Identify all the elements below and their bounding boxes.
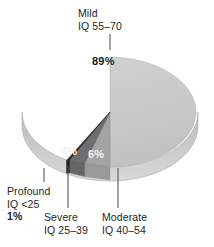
- slice-label-mild-name: Mild: [78, 7, 122, 20]
- slice-label-severe-iq: IQ 25–39: [44, 224, 88, 237]
- slice-label-moderate-name: Moderate: [102, 211, 147, 224]
- slice-percent-mild: 89%: [92, 55, 115, 67]
- slice-label-moderate-iq: IQ 40–54: [102, 224, 147, 237]
- slice-label-profound-name: Profound: [7, 185, 50, 198]
- slice-label-profound-iq: IQ <25: [7, 198, 50, 211]
- slice-label-severe: Severe IQ 25–39: [44, 211, 88, 236]
- slice-label-mild-iq: IQ 55–70: [78, 20, 122, 33]
- slice-label-moderate: Moderate IQ 40–54: [102, 211, 147, 236]
- slice-percent-moderate: 6%: [88, 148, 104, 160]
- slice-label-mild: Mild IQ 55–70: [78, 7, 122, 32]
- slice-label-severe-name: Severe: [44, 211, 88, 224]
- pie-chart-figure: Mild IQ 55–70 Profound IQ <25 1% Severe …: [0, 0, 214, 247]
- slice-percent-severe: 4%: [61, 145, 77, 157]
